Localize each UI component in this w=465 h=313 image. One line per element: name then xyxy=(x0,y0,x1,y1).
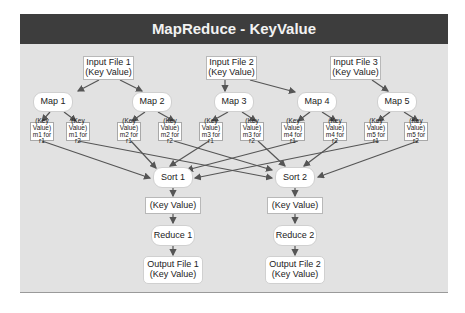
kv-m3-r2: (Key Value)m3 for r2 xyxy=(240,122,264,141)
input-file-2: Input File 2(Key Value) xyxy=(206,56,257,80)
edges-layer xyxy=(0,0,465,313)
edge-input1-map2 xyxy=(120,80,142,91)
kv-m5-r1: (Key Value)m5 for r1 xyxy=(364,122,388,141)
kv-m2-r2: (Key Value)m2 for r2 xyxy=(158,122,182,141)
map-5: Map 5 xyxy=(377,92,417,112)
input-file-1: Input File 1(Key Value) xyxy=(83,56,134,80)
edge-input3-map5 xyxy=(372,80,388,91)
kv-m2-r1: (Key Value)m2 for r1 xyxy=(117,122,141,141)
sorted-kv-1: (Key Value) xyxy=(145,197,201,214)
sort-2: Sort 2 xyxy=(275,167,315,188)
output-file-2: Output File 2(Key Value) xyxy=(265,256,325,284)
output-file-1: Output File 1(Key Value) xyxy=(143,256,203,284)
map-2: Map 2 xyxy=(132,92,172,112)
kv-m3-r1: (Key Value)m3 for r1 xyxy=(199,122,223,141)
edge-input2-map4 xyxy=(250,80,295,92)
sorted-kv-2: (Key Value) xyxy=(267,197,323,214)
sort-1: Sort 1 xyxy=(153,167,193,188)
reduce-1: Reduce 1 xyxy=(151,225,195,246)
kv-m4-r1: (Key Value)m4 for r1 xyxy=(281,122,305,141)
kv-m4-r2: (Key Value)m4 for r2 xyxy=(323,122,347,141)
edge-input1-map1 xyxy=(78,80,99,91)
map-4: Map 4 xyxy=(297,92,337,112)
kv-m1-r1: (Key Value)m1 for r1 xyxy=(30,122,54,141)
kv-m1-r2: (Key Value)m1 for r2 xyxy=(66,122,90,141)
map-3: Map 3 xyxy=(214,92,254,112)
input-file-3: Input File 3(Key Value) xyxy=(330,56,381,80)
reduce-2: Reduce 2 xyxy=(273,225,317,246)
kv-m5-r2: (Key Value)m5 for r2 xyxy=(404,122,428,141)
map-1: Map 1 xyxy=(33,92,73,112)
